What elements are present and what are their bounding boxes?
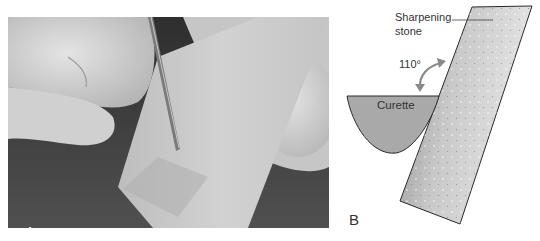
label-angle: 110° xyxy=(399,58,421,71)
panel-label-b: B xyxy=(349,211,359,228)
photo-panel-a: A xyxy=(8,17,329,228)
panel-label-a: A xyxy=(25,223,35,228)
label-curette: Curette xyxy=(377,99,415,112)
photo-illustration xyxy=(8,17,329,228)
label-stone: stone xyxy=(395,25,422,38)
label-sharpening: Sharpening xyxy=(395,11,451,24)
